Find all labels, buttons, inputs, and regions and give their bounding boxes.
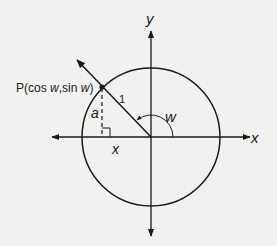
point-p [99, 84, 104, 89]
point-p-label: P(cos w,sin w) [16, 81, 93, 95]
radius-label: 1 [119, 93, 125, 105]
y-axis-label: y [145, 10, 155, 27]
x-axis-label: x [250, 129, 259, 146]
angle-label: w [165, 108, 177, 125]
terminal-ray [77, 60, 151, 137]
horizontal-leg-label: x [111, 141, 120, 157]
vertical-leg-label: a [91, 105, 99, 121]
right-angle-marker [102, 128, 110, 137]
unit-circle-diagram: y x P(cos w,sin w) 1 w a x [0, 0, 277, 246]
